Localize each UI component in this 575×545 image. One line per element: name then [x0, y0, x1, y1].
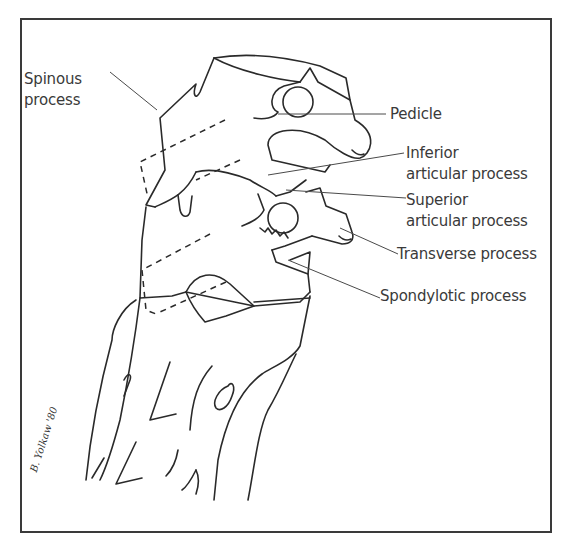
dashed-lamina-upper — [140, 120, 240, 198]
label-spinous-process: Spinous process — [24, 69, 82, 111]
upper-vertebra — [146, 56, 371, 217]
dashed-lamina-lower — [142, 234, 226, 314]
label-inferior-line2: articular process — [406, 164, 528, 185]
label-transverse-process: Transverse process — [397, 244, 537, 265]
vertebrae-drawing — [0, 0, 575, 545]
lower-vertebra — [140, 188, 353, 322]
label-spondylotic-process: Spondylotic process — [380, 286, 526, 307]
label-spinous-line2: process — [24, 90, 82, 111]
label-pedicle: Pedicle — [390, 104, 442, 125]
label-inferior-articular-process: Inferior articular process — [406, 143, 528, 185]
label-inferior-line1: Inferior — [406, 143, 528, 164]
label-superior-articular-process: Superior articular process — [406, 190, 528, 232]
sacrum — [86, 296, 310, 500]
label-spinous-line1: Spinous — [24, 69, 82, 90]
label-superior-line2: articular process — [406, 211, 528, 232]
label-superior-line1: Superior — [406, 190, 528, 211]
